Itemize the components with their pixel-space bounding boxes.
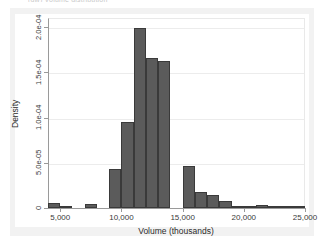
chart-root: (dw) Volume distribution 5,00010,00015,0…: [0, 0, 324, 250]
y-tick-mark: [44, 163, 48, 164]
y-tick-mark: [44, 72, 48, 73]
x-tick-mark: [244, 208, 245, 212]
x-tick-label: 25,000: [293, 213, 317, 222]
histogram-bar: [207, 195, 219, 208]
x-tick-label: 15,000: [170, 213, 194, 222]
histogram-bar: [219, 201, 231, 208]
histogram-bar: [158, 61, 170, 208]
x-tick-mark: [305, 208, 306, 212]
y-tick-label: 5.0e-05: [34, 150, 43, 175]
y-tick-mark: [44, 208, 48, 209]
y-tick-mark: [44, 27, 48, 28]
y-tick-label: 1.5e-04: [34, 59, 43, 84]
histogram-bar: [183, 166, 195, 208]
x-axis-title: Volume (thousands): [138, 226, 214, 236]
x-tick-mark: [121, 208, 122, 212]
x-tick-mark: [183, 208, 184, 212]
y-tick-label: 2.0e-04: [34, 14, 43, 39]
x-axis-line: [48, 208, 305, 209]
histogram-bar: [109, 169, 121, 208]
histogram-bars: [48, 18, 305, 208]
y-tick-label: 1.0e-04: [34, 105, 43, 130]
histogram-bar: [146, 58, 158, 208]
x-tick-label: 20,000: [232, 213, 256, 222]
x-tick-mark: [60, 208, 61, 212]
histogram-bar: [121, 122, 133, 208]
x-tick-label: 5,000: [50, 213, 70, 222]
y-axis-title: Density: [10, 100, 20, 128]
histogram-bar: [195, 192, 207, 208]
y-tick-label: 0: [34, 206, 43, 210]
histogram-bar: [134, 28, 146, 208]
clipped-title: (dw) Volume distribution: [28, 0, 108, 2]
x-tick-label: 10,000: [109, 213, 133, 222]
y-tick-mark: [44, 118, 48, 119]
